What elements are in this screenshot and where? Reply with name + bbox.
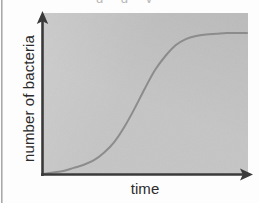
x-axis-label: time: [42, 180, 248, 197]
plot-panel: [42, 13, 248, 175]
cropped-caption-text: g g y: [96, 0, 246, 3]
bacterial-growth-chart: g g y number of bacteria time: [0, 0, 259, 203]
y-axis-label: number of bacteria: [20, 24, 37, 174]
page-edge-border: [1, 0, 3, 203]
